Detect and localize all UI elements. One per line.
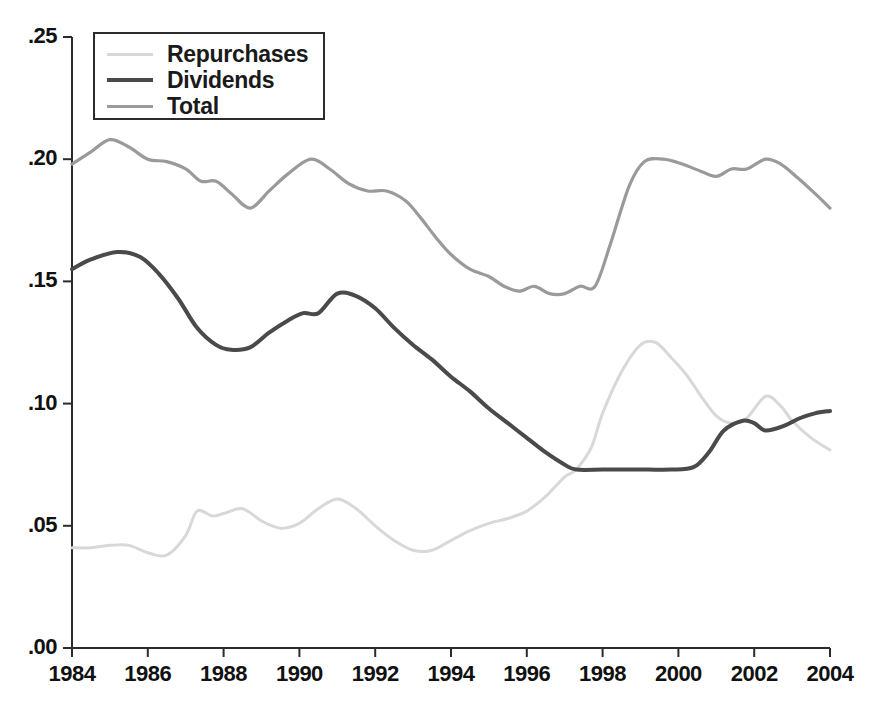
legend-swatch-total-icon — [107, 105, 153, 108]
legend-label: Repurchases — [167, 43, 308, 66]
legend-label: Dividends — [167, 69, 274, 92]
legend-item-total[interactable]: Total — [95, 92, 323, 120]
legend-swatch-dividends-icon — [107, 78, 153, 82]
chart-legend: RepurchasesDividendsTotal — [93, 32, 325, 120]
chart-figure: .00.05.10.15.20.251984198619881990199219… — [0, 0, 869, 710]
series-line-dividends — [72, 252, 830, 470]
legend-item-dividends[interactable]: Dividends — [95, 66, 323, 94]
series-line-repurchases — [72, 341, 830, 556]
series-line-total — [72, 140, 830, 295]
legend-label: Total — [167, 95, 219, 118]
legend-swatch-repurchases-icon — [107, 53, 153, 56]
legend-item-repurchases[interactable]: Repurchases — [95, 40, 323, 68]
